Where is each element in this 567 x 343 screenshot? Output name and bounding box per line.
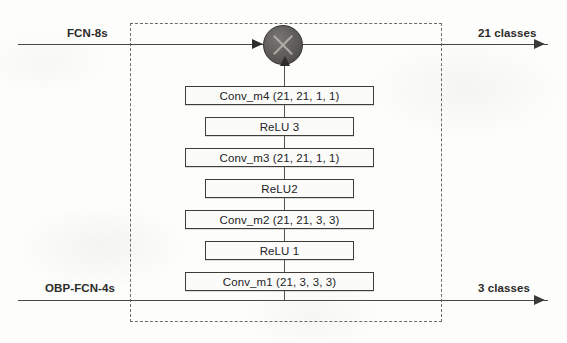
obp-fcn4s-input-line: [18, 300, 548, 301]
arrow-to-3-classes-icon: [534, 295, 545, 305]
arrow-into-merge-node-icon: [252, 39, 263, 49]
layer-box-conv_m4: Conv_m4 (21, 21, 1, 1): [185, 86, 374, 105]
layer-box-conv_m1: Conv_m1 (21, 3, 3, 3): [185, 272, 374, 291]
layer-box-conv_m3: Conv_m3 (21, 21, 1, 1): [185, 148, 374, 167]
connector-conv_m3-to-relu2: [284, 167, 285, 179]
output-label-3-classes: 3 classes: [478, 282, 530, 294]
connector-relu1-to-conv_m1: [284, 260, 285, 272]
connector-relu2-to-conv_m2: [284, 198, 285, 210]
layer-box-conv_m2: Conv_m2 (21, 21, 3, 3): [185, 210, 374, 229]
arrow-to-21-classes-icon: [534, 39, 545, 49]
layer-box-relu2: ReLU2: [205, 179, 354, 198]
diagram-canvas: FCN-8s OBP-FCN-4s 21 classes 3 classes C…: [0, 0, 567, 343]
input-label-obp-fcn4s: OBP-FCN-4s: [45, 282, 115, 294]
layer-box-relu1: ReLU 1: [205, 241, 354, 260]
connector-conv_m2-to-relu1: [284, 229, 285, 241]
input-label-fcn8s: FCN-8s: [67, 27, 108, 39]
arrow-up-into-merge-node-icon: [280, 56, 290, 66]
connector-relu3-to-conv_m3: [284, 136, 285, 148]
connector-conv_m4-to-relu3: [284, 105, 285, 117]
layer-box-relu3: ReLU 3: [205, 117, 354, 136]
output-label-21-classes: 21 classes: [478, 27, 537, 39]
connector-merge-to-conv_m4: [284, 66, 285, 86]
connector-bottom-rail-to-conv_m1: [284, 291, 285, 301]
